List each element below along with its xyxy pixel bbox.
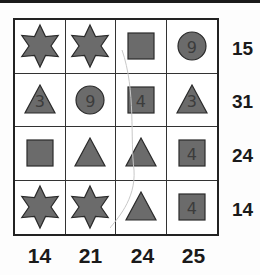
grid-cell[interactable]: 4 bbox=[167, 127, 218, 181]
grid-cell[interactable] bbox=[15, 127, 66, 181]
row-sum-2: 31 bbox=[232, 91, 260, 113]
grid-cell[interactable]: 9 bbox=[167, 20, 218, 74]
grid-cell[interactable]: 4 bbox=[167, 181, 218, 235]
circle-icon bbox=[67, 77, 113, 123]
triangle-icon bbox=[67, 130, 113, 176]
star-icon bbox=[17, 184, 63, 230]
square-icon bbox=[169, 184, 215, 230]
grid-cell[interactable] bbox=[116, 127, 167, 181]
column-sum-2: 21 bbox=[65, 244, 116, 268]
square-icon bbox=[17, 130, 63, 176]
column-sum-4: 25 bbox=[168, 244, 219, 268]
triangle-icon bbox=[118, 184, 164, 230]
grid-cell[interactable] bbox=[66, 127, 117, 181]
star-icon bbox=[67, 184, 113, 230]
grid-cell[interactable]: 3 bbox=[167, 74, 218, 128]
star-icon bbox=[17, 23, 63, 69]
grid-cell[interactable] bbox=[66, 20, 117, 74]
triangle-icon bbox=[17, 77, 63, 123]
grid-cell[interactable] bbox=[116, 181, 167, 235]
grid-cell[interactable]: 9 bbox=[66, 74, 117, 128]
triangle-icon bbox=[169, 77, 215, 123]
shape-sum-grid: 9394344 bbox=[13, 18, 219, 236]
square-icon bbox=[118, 23, 164, 69]
grid-cell[interactable] bbox=[66, 181, 117, 235]
grid-cell[interactable] bbox=[15, 20, 66, 74]
star-icon bbox=[67, 23, 113, 69]
grid-cell[interactable]: 4 bbox=[116, 74, 167, 128]
row-sum-1: 15 bbox=[232, 38, 260, 60]
triangle-icon bbox=[118, 130, 164, 176]
column-sum-1: 14 bbox=[14, 244, 65, 268]
grid-cell[interactable] bbox=[15, 181, 66, 235]
circle-icon bbox=[169, 23, 215, 69]
row-sum-4: 14 bbox=[232, 199, 260, 221]
grid-cell[interactable]: 3 bbox=[15, 74, 66, 128]
column-sum-3: 24 bbox=[117, 244, 168, 268]
square-icon bbox=[169, 130, 215, 176]
square-icon bbox=[118, 77, 164, 123]
top-border bbox=[0, 0, 260, 3]
grid-cell[interactable] bbox=[116, 20, 167, 74]
row-sum-3: 24 bbox=[232, 145, 260, 167]
